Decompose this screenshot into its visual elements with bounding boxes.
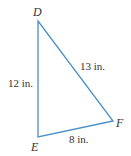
side-label-ef: 8 in. xyxy=(69,133,89,145)
vertex-label-e: E xyxy=(30,140,39,154)
triangle-diagram: D E F 12 in. 13 in. 8 in. xyxy=(0,0,131,156)
side-label-df: 13 in. xyxy=(80,60,105,72)
vertex-label-d: D xyxy=(32,5,42,19)
triangle-def xyxy=(38,21,113,137)
side-label-de: 12 in. xyxy=(8,77,33,89)
vertex-label-f: F xyxy=(115,116,124,130)
